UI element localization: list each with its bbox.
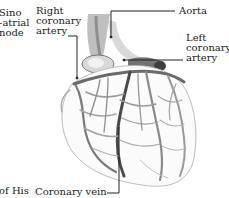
aorta-vessel (82, 14, 166, 73)
label-line: artery (36, 26, 81, 36)
heart-illustration (0, 0, 229, 198)
right-coronary-artery-leader-line (68, 36, 77, 78)
label-coronary-vein: Coronary vein (35, 187, 107, 197)
aorta-leader-line (111, 11, 175, 37)
label-sinoatrial-node: Sino -atrial node (0, 8, 30, 38)
label-line: Aorta (179, 6, 207, 16)
label-line: artery (186, 53, 229, 63)
label-line: node (0, 28, 30, 38)
label-line: Coronary vein (35, 187, 107, 197)
label-right-coronary-artery: Right coronary artery (36, 6, 81, 36)
label-left-coronary-artery: Left coronary artery (186, 33, 229, 63)
label-aorta: Aorta (179, 6, 207, 16)
label-line: of His (0, 186, 29, 196)
label-bundle-of-his: of His (0, 186, 29, 196)
